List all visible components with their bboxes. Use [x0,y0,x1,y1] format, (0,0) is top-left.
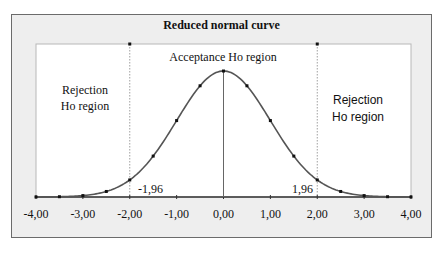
data-point [292,155,295,158]
data-point [105,190,108,193]
x-tick-label: 2,00 [307,207,328,221]
critical-value-right-label: 1,96 [292,182,313,196]
data-point [152,155,155,158]
rejection-left-label-1: Rejection [62,83,108,97]
x-tick-label: -2,00 [117,207,142,221]
data-point [410,195,413,198]
rejection-right-label-2: Ho region [332,110,384,124]
data-point [35,195,38,198]
data-point [81,194,84,197]
data-point [245,84,248,87]
data-point [386,195,389,198]
data-point [339,190,342,193]
x-tick-label: 4,00 [401,207,422,221]
x-tick-label: -3,00 [70,207,95,221]
data-point [316,178,319,181]
data-point [58,195,61,198]
data-point [222,70,225,73]
x-tick-label: 0,00 [213,207,234,221]
rejection-right-label-1: Rejection [333,93,383,107]
x-tick-label: 3,00 [354,207,375,221]
data-point [175,119,178,122]
acceptance-region-label: Acceptance Ho region [169,50,276,64]
normal-curve-chart: -4,00-3,00-2,00-1,000,001,002,003,004,00… [0,0,444,254]
data-point [363,194,366,197]
x-tick-label: -1,00 [164,207,189,221]
rejection-left-label-2: Ho region [61,99,109,113]
data-point [128,178,131,181]
critical-value-left-label: -1,96 [138,182,163,196]
x-tick-label: -4,00 [24,207,49,221]
x-tick-label: 1,00 [260,207,281,221]
data-point [269,119,272,122]
data-point [199,84,202,87]
